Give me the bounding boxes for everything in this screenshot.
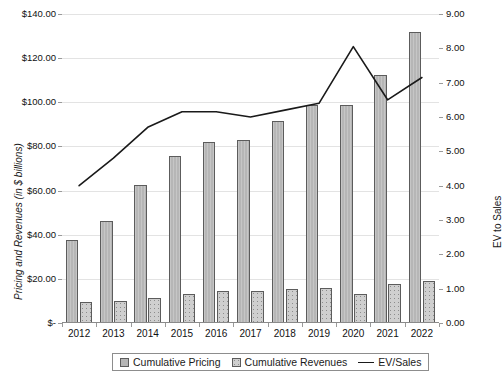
y-tick-mark-right [439, 220, 443, 221]
y-tick-mark-right [439, 186, 443, 187]
y-axis-right-tick-label: 4.00 [446, 180, 465, 191]
y-axis-left-tick-label: $40.00 [4, 229, 56, 240]
x-tick-mark [199, 323, 200, 327]
y-axis-left-tick-label: $120.00 [4, 52, 56, 63]
y-axis-right-tick-label: 9.00 [446, 8, 465, 19]
x-tick-mark [336, 323, 337, 327]
y-tick-mark-right [439, 254, 443, 255]
y-tick-mark-right [439, 151, 443, 152]
x-axis-tick-label: 2013 [96, 328, 130, 339]
legend-swatch-line-icon [358, 362, 374, 363]
y-axis-left-tick-label: $- [4, 317, 56, 328]
x-axis-tick-label: 2019 [302, 328, 336, 339]
y-tick-mark-right [439, 117, 443, 118]
x-tick-mark [62, 323, 63, 327]
y-axis-right-tick-label: 6.00 [446, 111, 465, 122]
y-axis-right-tick-label: 5.00 [446, 145, 465, 156]
y-axis-right-tick-label: 0.00 [446, 317, 465, 328]
y-axis-right-tick-label: 1.00 [446, 283, 465, 294]
legend-swatch-pricing-icon [120, 358, 129, 367]
plot-area [62, 14, 439, 323]
legend-label-ev-sales: EV/Sales [378, 356, 421, 368]
x-axis-tick-label: 2012 [62, 328, 96, 339]
x-axis-tick-label: 2022 [405, 328, 439, 339]
x-tick-mark [405, 323, 406, 327]
y-axis-left-tick-label: $100.00 [4, 96, 56, 107]
x-axis-tick-label: 2020 [336, 328, 370, 339]
chart-legend: Cumulative Pricing Cumulative Revenues E… [112, 353, 429, 371]
x-tick-mark [268, 323, 269, 327]
y-axis-right-tick-label: 2.00 [446, 248, 465, 259]
y-tick-mark-right [439, 83, 443, 84]
y-axis-left-tick-label: $60.00 [4, 185, 56, 196]
legend-label-pricing: Cumulative Pricing [133, 356, 221, 368]
y-tick-mark-right [439, 48, 443, 49]
x-axis-tick-label: 2018 [268, 328, 302, 339]
x-axis-tick-label: 2016 [199, 328, 233, 339]
x-tick-mark [302, 323, 303, 327]
legend-item-ev-sales: EV/Sales [358, 356, 421, 368]
x-axis-tick-label: 2014 [131, 328, 165, 339]
legend-label-revenues: Cumulative Revenues [245, 356, 348, 368]
x-axis-tick-label: 2017 [234, 328, 268, 339]
y-axis-right-title: EV to Sales [492, 196, 503, 248]
x-tick-mark [165, 323, 166, 327]
x-tick-mark [96, 323, 97, 327]
x-tick-mark [233, 323, 234, 327]
legend-item-cumulative-revenues: Cumulative Revenues [232, 356, 348, 368]
x-axis-tick-label: 2021 [371, 328, 405, 339]
legend-item-cumulative-pricing: Cumulative Pricing [120, 356, 221, 368]
ev-sales-line [62, 14, 439, 323]
x-axis-line [62, 322, 439, 324]
y-tick-mark-right [439, 14, 443, 15]
y-axis-left-tick-label: $80.00 [4, 140, 56, 151]
y-axis-right-tick-label: 7.00 [446, 77, 465, 88]
y-axis-left-tick-label: $20.00 [4, 273, 56, 284]
x-tick-mark [370, 323, 371, 327]
x-tick-mark [439, 323, 440, 327]
x-axis-tick-label: 2015 [165, 328, 199, 339]
y-axis-right-tick-label: 8.00 [446, 42, 465, 53]
y-tick-mark-right [439, 289, 443, 290]
y-axis-right-tick-label: 3.00 [446, 214, 465, 225]
legend-swatch-revenues-icon [232, 358, 241, 367]
x-tick-mark [131, 323, 132, 327]
y-axis-left-tick-label: $140.00 [4, 8, 56, 19]
